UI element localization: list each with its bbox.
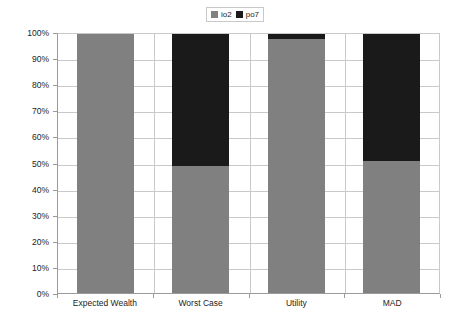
- plot-area: [57, 33, 440, 294]
- bar-slot: [344, 34, 439, 293]
- y-tick-label: 100%: [3, 28, 49, 38]
- x-axis-labels: Expected WealthWorst CaseUtilityMAD: [57, 298, 440, 308]
- y-tick-label: 70%: [3, 106, 49, 116]
- y-tick-label: 10%: [3, 263, 49, 273]
- y-tick-label: 20%: [3, 237, 49, 247]
- bar-slot: [249, 34, 344, 293]
- x-tick-mark: [440, 294, 441, 298]
- y-tick-label: 30%: [3, 211, 49, 221]
- x-tick-label: Utility: [249, 298, 345, 308]
- bar-group: [58, 34, 439, 293]
- bar-slot: [153, 34, 248, 293]
- stacked-bar[interactable]: [77, 34, 134, 293]
- bar-segment-io2[interactable]: [172, 166, 229, 293]
- stacked-bar[interactable]: [172, 34, 229, 293]
- x-tick-label: Expected Wealth: [57, 298, 153, 308]
- y-tick-label: 90%: [3, 54, 49, 64]
- bar-segment-po7[interactable]: [172, 34, 229, 166]
- y-tick-label: 0%: [3, 289, 49, 299]
- bar-segment-io2[interactable]: [77, 34, 134, 293]
- bar-segment-io2[interactable]: [268, 39, 325, 293]
- y-tick-label: 40%: [3, 185, 49, 195]
- bar-segment-io2[interactable]: [363, 161, 420, 293]
- bar-slot: [58, 34, 153, 293]
- stacked-bar[interactable]: [268, 34, 325, 293]
- y-tick-label: 60%: [3, 132, 49, 142]
- x-tick-label: MAD: [344, 298, 440, 308]
- y-tick-label: 50%: [3, 159, 49, 169]
- x-tick-label: Worst Case: [153, 298, 249, 308]
- y-tick-label: 80%: [3, 80, 49, 90]
- stacked-bar[interactable]: [363, 34, 420, 293]
- bar-segment-po7[interactable]: [363, 34, 420, 161]
- chart-container: io2 po7 Holding 0%10%20%30%40%50%60%70%8…: [0, 0, 461, 330]
